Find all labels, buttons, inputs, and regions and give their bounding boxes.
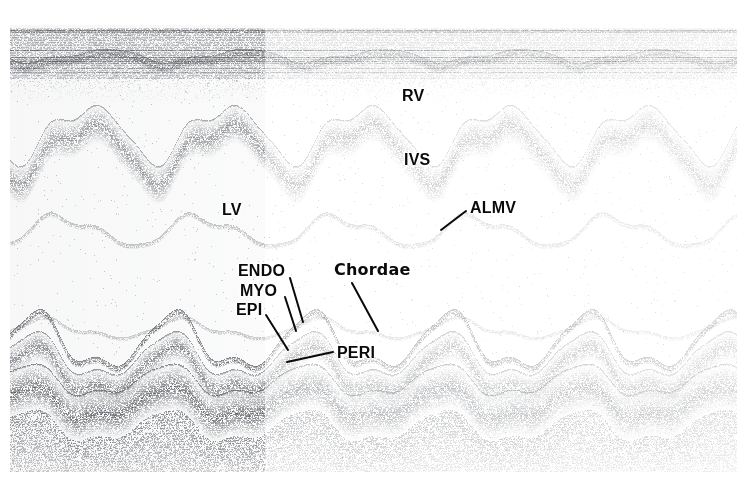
label-myo: MYO — [240, 283, 277, 299]
label-chordae: Chordae — [334, 262, 411, 278]
label-ivs: IVS — [404, 152, 430, 168]
echocardiogram-viewport: RV IVS ALMV LV ENDO MYO EPI Chordae PERI — [0, 0, 747, 482]
ultrasound-mmode-scan — [0, 0, 747, 482]
label-peri: PERI — [337, 345, 375, 361]
label-lv: LV — [222, 202, 242, 218]
label-endo: ENDO — [238, 263, 285, 279]
label-rv: RV — [402, 88, 424, 104]
label-almv: ALMV — [470, 200, 516, 216]
label-epi: EPI — [236, 302, 262, 318]
